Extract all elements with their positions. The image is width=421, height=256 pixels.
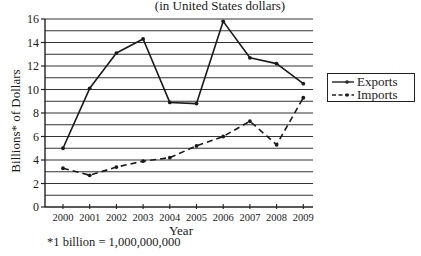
data-point-exports: [248, 56, 252, 60]
data-point-imports: [301, 96, 305, 100]
data-point-imports: [221, 135, 225, 139]
x-tick-label: 2008: [266, 212, 287, 223]
x-tick-label: 2009: [293, 212, 314, 223]
x-tick-label: 2005: [186, 212, 207, 223]
legend-label-imports: Imports: [357, 87, 397, 103]
data-point-imports: [195, 144, 199, 148]
line-chart: 0246810121416200020012002200320042005200…: [0, 0, 421, 256]
y-tick-label: 6: [33, 130, 39, 144]
y-tick-label: 16: [27, 12, 39, 26]
data-point-imports: [168, 156, 172, 160]
x-tick-label: 2000: [53, 212, 74, 223]
data-point-imports: [248, 119, 252, 123]
x-tick-label: 2007: [239, 212, 260, 223]
legend: Exports Imports: [327, 73, 415, 102]
x-tick-label: 2001: [79, 212, 100, 223]
data-point-exports: [61, 146, 65, 150]
data-point-imports: [115, 165, 119, 169]
data-point-exports: [275, 62, 279, 66]
series-line-exports: [63, 21, 303, 148]
data-point-exports: [115, 51, 119, 55]
y-tick-label: 10: [27, 83, 39, 97]
y-tick-label: 14: [27, 36, 39, 50]
x-tick-label: 2002: [106, 212, 127, 223]
data-point-imports: [141, 159, 145, 163]
y-axis-title: Billions* of Dollars: [8, 69, 23, 172]
data-point-exports: [301, 82, 305, 86]
data-point-exports: [141, 37, 145, 41]
y-tick-label: 2: [33, 177, 39, 191]
y-tick-label: 0: [33, 200, 39, 214]
y-tick-label: 12: [27, 59, 39, 73]
data-point-exports: [168, 101, 172, 105]
x-tick-label: 2004: [159, 212, 181, 223]
data-point-exports: [195, 102, 199, 106]
y-tick-label: 8: [33, 106, 39, 120]
dashed-line-marker-icon: [332, 91, 354, 99]
solid-line-marker-icon: [332, 78, 354, 86]
x-tick-label: 2006: [213, 212, 234, 223]
data-point-imports: [88, 173, 92, 177]
x-tick-label: 2003: [133, 212, 154, 223]
y-tick-label: 4: [33, 153, 39, 167]
data-point-exports: [221, 19, 225, 23]
data-point-exports: [88, 86, 92, 90]
legend-item-imports: Imports: [332, 88, 397, 101]
data-point-imports: [61, 166, 65, 170]
data-point-imports: [275, 143, 279, 147]
footnote: *1 billion = 1,000,000,000: [47, 235, 180, 250]
